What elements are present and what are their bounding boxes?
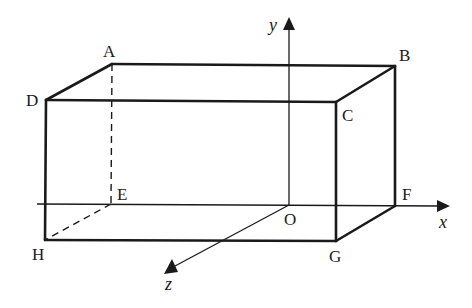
- vertex-label-D: D: [26, 91, 38, 110]
- vertex-label-B: B: [399, 46, 410, 65]
- edge-AB: [112, 64, 395, 66]
- axis-label-z: z: [164, 274, 172, 294]
- edge-GF: [336, 206, 395, 241]
- z-axis-arrow-icon: [164, 259, 178, 274]
- z-axis: [175, 205, 289, 266]
- axis-label-y: y: [267, 15, 277, 35]
- edge-HG: [45, 240, 336, 241]
- vertex-label-H: H: [32, 245, 44, 264]
- origin-label-O: O: [284, 210, 296, 229]
- vertex-label-E: E: [117, 185, 127, 204]
- vertex-label-G: G: [329, 247, 341, 266]
- axis-label-x: x: [438, 212, 447, 232]
- y-axis-arrow-icon: [283, 17, 295, 30]
- edge-EH-hidden: [45, 204, 111, 240]
- vertex-label-A: A: [103, 42, 116, 61]
- edge-AE-hidden: [111, 64, 112, 204]
- vertex-label-C: C: [342, 106, 353, 125]
- edge-BC: [336, 66, 395, 102]
- x-axis: [37, 204, 440, 206]
- box-diagram: A B C D E F G H O x y z: [0, 0, 472, 308]
- vertex-label-F: F: [402, 185, 411, 204]
- x-axis-arrow-icon: [437, 200, 450, 212]
- edge-DH: [45, 100, 46, 240]
- edge-DC: [46, 100, 336, 102]
- edge-AD: [46, 64, 112, 100]
